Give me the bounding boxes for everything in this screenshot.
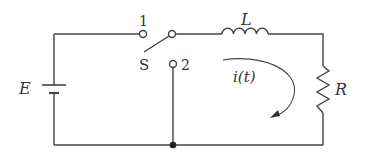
- resistor-label: R: [335, 82, 347, 98]
- current-label: i(t): [233, 70, 256, 85]
- circuit-schematic: [0, 0, 371, 165]
- switch-blade: [144, 36, 169, 52]
- wire-top-right: [268, 34, 323, 66]
- resistor-zigzag: [317, 66, 329, 113]
- current-arrowhead: [270, 110, 280, 118]
- switch-label: S: [139, 58, 149, 73]
- inductor-label: L: [241, 12, 252, 28]
- inductor-coil: [222, 28, 268, 34]
- junction-dot: [170, 142, 177, 149]
- switch-terminal-1: [140, 31, 147, 38]
- switch-pivot: [169, 31, 176, 38]
- switch-terminal-1-label: 1: [139, 14, 148, 28]
- switch-terminal-2: [170, 61, 177, 68]
- circuit-diagram: E 1 S 2 L R i(t): [0, 0, 371, 165]
- switch-terminal-2-label: 2: [181, 58, 190, 72]
- battery-label: E: [19, 81, 31, 97]
